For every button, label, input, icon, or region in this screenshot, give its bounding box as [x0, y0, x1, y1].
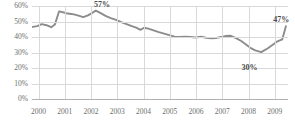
x-tick-2003: 2003	[110, 107, 125, 116]
y-axis-tick-labels: 60%50%40%30%20%10%0%	[0, 0, 295, 121]
y-tick-10: 10%	[0, 79, 28, 88]
y-tick-20: 20%	[0, 63, 28, 72]
y-tick-40: 40%	[0, 32, 28, 41]
data-label-57: 57%	[94, 0, 110, 9]
data-label-47: 47%	[273, 15, 289, 24]
x-tick-2000: 2000	[31, 107, 46, 116]
y-tick-50: 50%	[0, 17, 28, 26]
x-tick-2002: 2002	[84, 107, 99, 116]
x-tick-2004: 2004	[136, 107, 151, 116]
y-tick-0: 0%	[0, 94, 28, 103]
x-tick-2006: 2006	[189, 107, 204, 116]
x-tick-2009: 2009	[267, 107, 282, 116]
x-tick-2008: 2008	[241, 107, 256, 116]
x-tick-2001: 2001	[57, 107, 72, 116]
x-tick-2007: 2007	[215, 107, 230, 116]
line-chart: 60%50%40%30%20%10%0% 2000200120022003200…	[0, 0, 295, 121]
y-tick-60: 60%	[0, 1, 28, 10]
x-tick-2005: 2005	[162, 107, 177, 116]
y-tick-30: 30%	[0, 48, 28, 57]
data-label-30: 30%	[242, 63, 258, 72]
